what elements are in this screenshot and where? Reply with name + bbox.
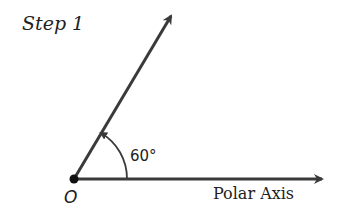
angle-arc [101,133,127,179]
polar-angle-diagram [0,0,347,221]
polar-axis-label: Polar Axis [213,184,294,203]
origin-label: O [64,187,77,207]
angle-label: 60° [130,147,157,165]
origin-point [70,175,79,184]
